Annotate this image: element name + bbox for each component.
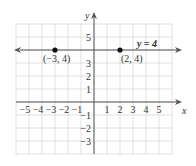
point-label: (2, 4) xyxy=(121,53,143,65)
x-tick-label: −3 xyxy=(46,104,57,115)
y-tick-label: −1 xyxy=(80,110,91,121)
y-tick-label: 3 xyxy=(86,58,91,69)
y-tick-label: −3 xyxy=(80,136,91,147)
y-tick-label: 2 xyxy=(86,71,91,82)
x-tick-label: 1 xyxy=(105,104,110,115)
coordinate-plane: −5−4−3−2−1123455321−1−2−3xyy = 4(−3, 4)(… xyxy=(0,0,196,166)
x-tick-label: −4 xyxy=(33,104,44,115)
y-tick-label: 5 xyxy=(86,32,91,43)
x-axis-label: x xyxy=(181,105,187,116)
x-tick-label: 4 xyxy=(144,104,149,115)
x-tick-label: −5 xyxy=(20,104,31,115)
x-tick-label: −2 xyxy=(59,104,70,115)
x-tick-label: 3 xyxy=(131,104,136,115)
y-tick-label: −2 xyxy=(80,123,91,134)
line-equation-label: y = 4 xyxy=(136,38,157,49)
x-tick-label: 2 xyxy=(118,104,123,115)
data-point xyxy=(117,47,122,52)
y-axis-label: y xyxy=(84,10,90,21)
tick-labels: −5−4−3−2−1123455321−1−2−3xyy = 4(−3, 4)(… xyxy=(20,10,187,147)
y-tick-label: 1 xyxy=(86,84,91,95)
x-tick-label: 5 xyxy=(157,104,162,115)
data-point xyxy=(52,47,57,52)
point-label: (−3, 4) xyxy=(43,53,70,65)
axes xyxy=(14,12,182,154)
